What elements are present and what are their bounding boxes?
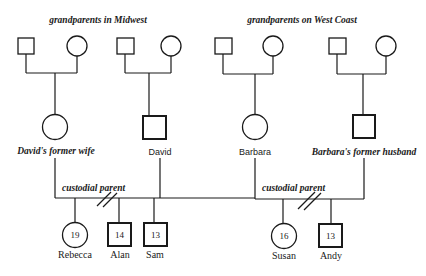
title-midwest-grandparents: grandparents in Midwest bbox=[48, 15, 147, 25]
barbara-former-husband-label: Barbara's former husband bbox=[311, 147, 417, 157]
alan-age: 14 bbox=[115, 230, 125, 240]
david-former-wife-circle bbox=[43, 115, 68, 140]
child-alan: 14 Sam Alan bbox=[108, 223, 131, 260]
divorce-slash-right bbox=[298, 192, 321, 210]
custodial-parent-label-right: custodial parent bbox=[262, 183, 325, 193]
title-west-coast-grandparents: grandparents on West Coast bbox=[246, 15, 357, 25]
barbara-label: Barbara bbox=[239, 147, 271, 157]
barbara-circle bbox=[243, 115, 268, 140]
andy-name: Andy bbox=[320, 250, 342, 261]
grandparents-westcoast-2 bbox=[329, 36, 396, 115]
sam-age: 13 bbox=[151, 230, 161, 240]
grandparents-midwest-2 bbox=[117, 36, 181, 116]
rebecca-age: 19 bbox=[71, 230, 81, 240]
grandparents-midwest-1 bbox=[18, 36, 87, 115]
barbara-former-husband-square bbox=[353, 115, 375, 138]
grandmother-circle bbox=[376, 36, 396, 56]
divorce-slash-left bbox=[97, 192, 117, 207]
grandfather-square bbox=[18, 38, 34, 54]
andy-age: 13 bbox=[326, 231, 336, 241]
custodial-parent-label-left: custodial parent bbox=[62, 183, 125, 193]
child-andy: 13 Andy bbox=[319, 224, 342, 261]
grandfather-square bbox=[117, 38, 134, 54]
grandmother-circle bbox=[263, 36, 283, 56]
susan-age: 16 bbox=[280, 231, 290, 241]
david-former-wife-label: David's former wife bbox=[16, 146, 95, 156]
david-label: David bbox=[148, 147, 171, 157]
genogram-diagram: grandparents in Midwest grandparents on … bbox=[0, 0, 426, 276]
alan-name-label: Alan bbox=[110, 249, 129, 260]
rebecca-name: Rebecca bbox=[58, 249, 92, 260]
child-susan: 16 Susan bbox=[272, 224, 297, 262]
grandmother-circle bbox=[161, 36, 181, 56]
child-sam: 13 Sam bbox=[144, 223, 167, 260]
grandmother-circle bbox=[67, 36, 87, 56]
sam-name: Sam bbox=[146, 249, 164, 260]
susan-name: Susan bbox=[272, 250, 296, 261]
grandfather-square bbox=[215, 38, 232, 54]
grandparents-westcoast-1 bbox=[215, 36, 283, 115]
david-square bbox=[143, 116, 166, 139]
grandfather-square bbox=[329, 38, 346, 54]
child-rebecca: 19 Rebecca bbox=[58, 223, 92, 261]
